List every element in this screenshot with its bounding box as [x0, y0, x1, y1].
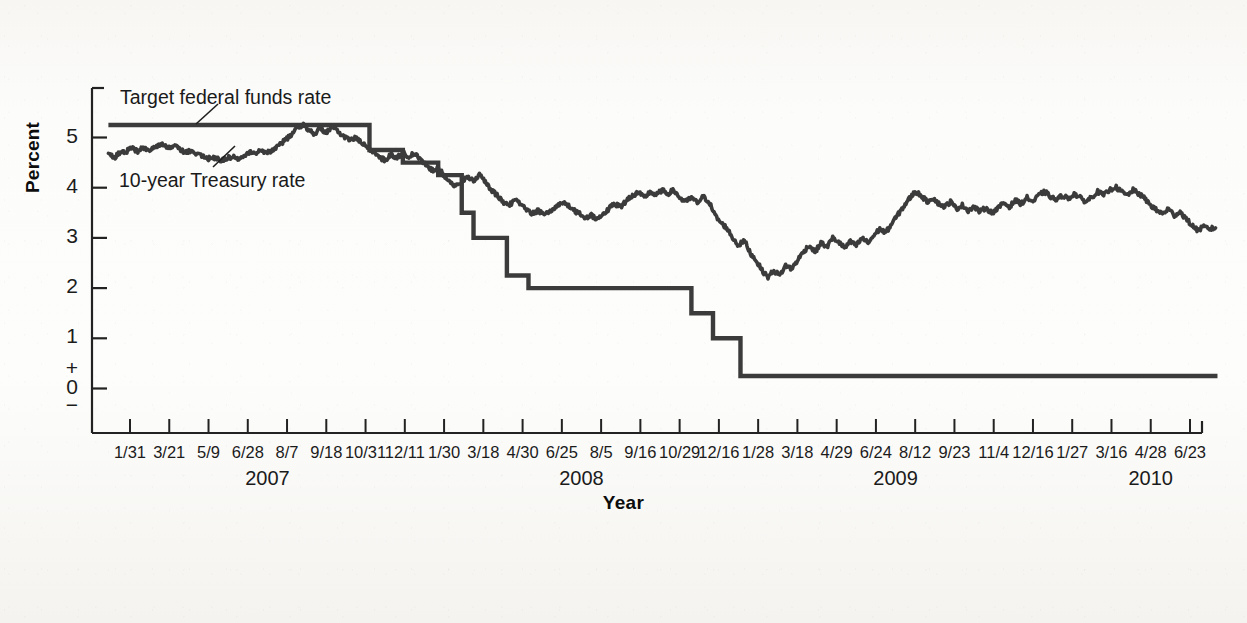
x-tick-label: 1/30	[428, 443, 460, 462]
x-tick-label: 10/31	[345, 443, 386, 462]
x-tick-label: 9/18	[310, 443, 342, 462]
year-label: 2009	[873, 467, 918, 490]
x-tick-label: 3/18	[781, 443, 813, 462]
x-tick-label: 6/24	[860, 443, 892, 462]
year-label: 2010	[1128, 467, 1173, 490]
x-tick-label: 5/9	[197, 443, 220, 462]
y-tick-label-2: 2	[52, 274, 78, 298]
x-tick-label: 4/28	[1135, 443, 1167, 462]
x-tick-label: 1/28	[742, 443, 774, 462]
x-tick-label: 8/7	[276, 443, 299, 462]
y-tick-label-5: 5	[52, 124, 78, 148]
series-10-year-treasury-rate	[108, 123, 1215, 279]
y-tick-marks	[92, 138, 107, 389]
series-target-federal-funds-rate	[108, 125, 1217, 376]
series-label-target-federal-funds-rate: Target federal funds rate	[120, 86, 331, 109]
x-tick-label: 12/11	[385, 443, 425, 462]
x-tick-label: 3/21	[153, 443, 185, 462]
year-label: 2008	[559, 467, 604, 490]
x-tick-label: 1/31	[114, 443, 146, 462]
x-tick-label: 6/25	[546, 443, 578, 462]
x-tick-label: 12/16	[698, 443, 739, 462]
y-tick-label-4: 4	[52, 174, 78, 198]
x-tick-label: 6/23	[1174, 443, 1206, 462]
axes	[92, 88, 1202, 433]
y-tick-label-minus: −	[52, 393, 78, 417]
series-label-10-year-treasury-rate: 10-year Treasury rate	[119, 169, 305, 192]
x-tick-label: 4/29	[821, 443, 853, 462]
x-tick-label: 1/27	[1056, 443, 1088, 462]
x-tick-label: 4/30	[507, 443, 539, 462]
x-tick-label: 11/4	[978, 443, 1009, 462]
x-tick-label: 9/23	[938, 443, 970, 462]
treasury-rate-path	[108, 123, 1215, 279]
x-tick-marks	[130, 419, 1190, 433]
x-tick-label: 3/18	[467, 443, 499, 462]
x-tick-label: 9/16	[624, 443, 656, 462]
x-tick-label: 8/5	[590, 443, 613, 462]
x-axis-title: Year	[0, 492, 1247, 514]
x-tick-label: 3/16	[1095, 443, 1127, 462]
x-tick-label: 12/16	[1012, 443, 1053, 462]
target-funds-rate-path	[108, 125, 1217, 376]
y-axis-title: Percent	[22, 122, 44, 193]
x-tick-label: 6/28	[232, 443, 264, 462]
year-label: 2007	[245, 467, 290, 490]
y-tick-label-1: 1	[52, 324, 78, 348]
x-tick-label: 8/12	[899, 443, 931, 462]
y-tick-label-3: 3	[52, 224, 78, 248]
figure-page: Percent Year Target federal funds rate 1…	[0, 0, 1247, 623]
x-tick-label: 10/29	[659, 443, 700, 462]
